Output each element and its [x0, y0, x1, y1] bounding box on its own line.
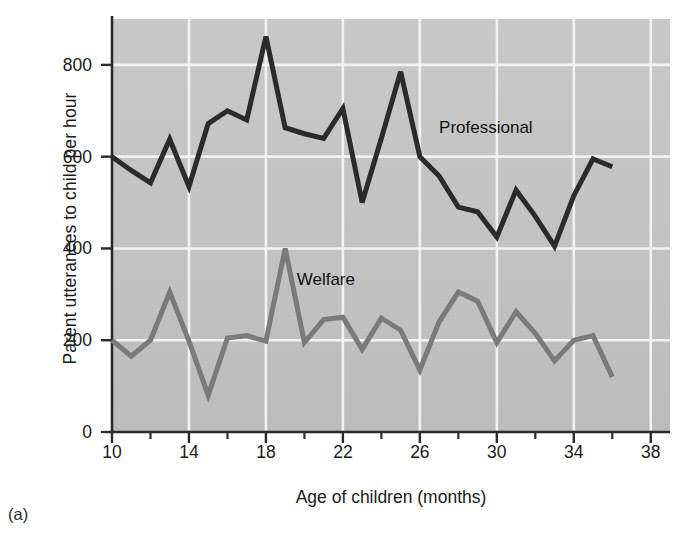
y-tick-label: 0	[82, 422, 92, 443]
y-tick-label: 200	[63, 330, 92, 351]
x-tick-label: 22	[333, 442, 352, 463]
y-tick-label: 800	[63, 54, 92, 75]
x-tick-label: 26	[410, 442, 429, 463]
x-tick-label: 14	[179, 442, 198, 463]
series-label-welfare: Welfare	[297, 270, 355, 290]
plot-area-texture	[112, 19, 670, 432]
y-tick-label: 600	[63, 146, 92, 167]
x-axis-label: Age of children (months)	[112, 487, 670, 508]
panel-caption: (a)	[8, 505, 28, 524]
series-label-professional: Professional	[439, 118, 533, 138]
x-tick-label: 10	[102, 442, 121, 463]
x-tick-label: 30	[487, 442, 506, 463]
y-tick-label: 400	[63, 238, 92, 259]
plot-background	[112, 19, 670, 432]
x-tick-label: 38	[641, 442, 660, 463]
figure-panel: Parent utterances to child per hour Age …	[0, 0, 692, 537]
x-tick-label: 34	[564, 442, 583, 463]
y-axis-label: Parent utterances to child per hour	[60, 19, 81, 439]
x-tick-label: 18	[256, 442, 275, 463]
